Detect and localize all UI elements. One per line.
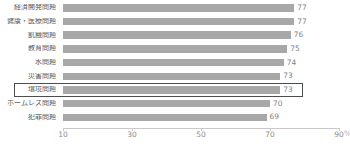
- bar: [63, 86, 280, 94]
- category-label: 犯罪問題: [0, 114, 63, 121]
- tick-label: 50: [196, 131, 206, 139]
- bar-row: 犯罪問題69: [0, 111, 350, 125]
- bar: [63, 59, 284, 67]
- bar-row: 環境問題73: [0, 83, 350, 97]
- bar-track: 73: [63, 73, 339, 81]
- category-label: 飢餓問題: [0, 32, 63, 39]
- chart-rows: 経済開発問題77健康・医療問題77飢餓問題76教育問題75水問題74災害問題73…: [0, 1, 350, 124]
- bar: [63, 114, 267, 122]
- bar: [63, 45, 287, 53]
- bar: [63, 4, 294, 12]
- bar-row: 教育問題75: [0, 42, 350, 56]
- category-label: 水問題: [0, 59, 63, 66]
- bar-row: 健康・医療問題77: [0, 15, 350, 29]
- bar-row: 水問題74: [0, 56, 350, 70]
- bar: [63, 100, 270, 108]
- category-label: ホームレス問題: [0, 100, 63, 107]
- x-axis-unit-label: %: [344, 130, 350, 138]
- category-label: 経済開発問題: [0, 4, 63, 11]
- bar-track: 76: [63, 31, 339, 39]
- value-label: 75: [290, 45, 300, 53]
- value-label: 77: [297, 4, 307, 12]
- value-label: 76: [294, 31, 304, 38]
- x-axis: % 1030507090: [63, 128, 339, 129]
- bar-row: 災害問題73: [0, 69, 350, 83]
- bar-track: 70: [63, 100, 339, 108]
- category-label: 災害問題: [0, 73, 63, 80]
- bar-track: 73: [63, 86, 339, 94]
- bar: [63, 31, 291, 39]
- bar-track: 75: [63, 45, 339, 53]
- bar-track: 77: [63, 18, 339, 26]
- category-label: 環境問題: [0, 86, 63, 93]
- bar-track: 77: [63, 4, 339, 12]
- bar: [63, 18, 294, 26]
- bar-row: 経済開発問題77: [0, 1, 350, 15]
- bar-row: ホームレス問題70: [0, 97, 350, 111]
- tick-label: 30: [127, 131, 137, 139]
- value-label: 70: [273, 100, 283, 108]
- value-label: 73: [283, 72, 293, 80]
- bar-track: 74: [63, 59, 339, 67]
- category-label: 健康・医療問題: [0, 18, 63, 25]
- bar-row: 飢餓問題76: [0, 28, 350, 42]
- category-label: 教育問題: [0, 45, 63, 52]
- bar: [63, 73, 280, 81]
- value-label: 74: [287, 59, 297, 67]
- bar-track: 69: [63, 114, 339, 122]
- tick-label: 90: [334, 131, 344, 139]
- value-label: 69: [270, 113, 280, 121]
- tick-label: 70: [265, 131, 275, 139]
- value-label: 77: [297, 18, 307, 26]
- tick-label: 10: [58, 131, 68, 139]
- value-label: 73: [283, 86, 293, 94]
- bar-chart: 経済開発問題77健康・医療問題77飢餓問題76教育問題75水問題74災害問題73…: [0, 0, 350, 150]
